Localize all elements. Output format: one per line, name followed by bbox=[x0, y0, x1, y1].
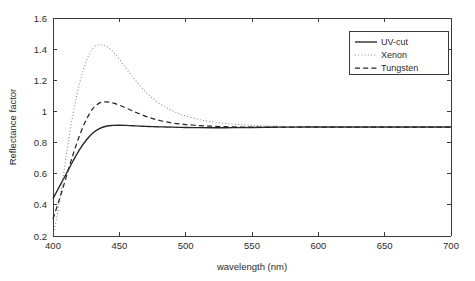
y-tick-label: 1.2 bbox=[34, 75, 47, 86]
x-tick-label: 450 bbox=[111, 240, 127, 251]
x-tick-label: 400 bbox=[45, 240, 61, 251]
x-axis-title: wavelength (nm) bbox=[216, 261, 287, 272]
y-tick-label: 0.8 bbox=[34, 137, 47, 148]
chart-figure: 0.20.40.60.811.21.41.6 40045050055060065… bbox=[0, 0, 475, 281]
x-tick-label: 700 bbox=[443, 240, 459, 251]
reflectance-factor-line-chart: 0.20.40.60.811.21.41.6 40045050055060065… bbox=[0, 0, 475, 281]
legend-label-xenon: Xenon bbox=[381, 50, 407, 60]
x-tick-label: 600 bbox=[310, 240, 326, 251]
legend-label-tungsten: Tungsten bbox=[381, 63, 418, 73]
y-axis-title: Reflectance factor bbox=[7, 89, 18, 166]
y-tick-label: 0.6 bbox=[34, 168, 47, 179]
legend: UV-cutXenonTungsten bbox=[350, 32, 449, 75]
y-tick-label: 1.6 bbox=[34, 13, 47, 24]
series-line-uv-cut bbox=[53, 125, 451, 198]
y-tick-label: 1.4 bbox=[34, 44, 47, 55]
x-tick-label: 500 bbox=[178, 240, 194, 251]
series-line-tungsten bbox=[53, 102, 451, 219]
y-tick-label: 0.4 bbox=[34, 199, 47, 210]
x-tick-label: 650 bbox=[377, 240, 393, 251]
x-tick-label: 550 bbox=[244, 240, 260, 251]
y-tick-label: 1 bbox=[42, 106, 47, 117]
legend-label-uv-cut: UV-cut bbox=[381, 37, 409, 47]
